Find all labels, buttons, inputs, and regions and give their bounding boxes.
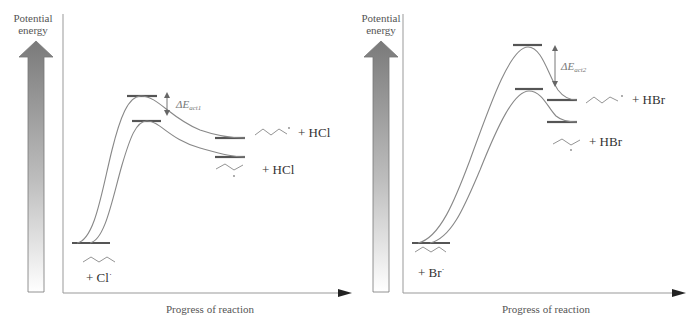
radical-dot-icon	[570, 149, 572, 151]
reaction-curve-lower	[90, 121, 245, 243]
reactant-label: + Cl·	[86, 269, 112, 285]
radical-dot-icon	[288, 127, 290, 129]
potential-energy-label-line2: energy	[18, 24, 48, 36]
secondary-radical-molecule-icon	[553, 139, 580, 145]
potential-energy-label-line1: Potential	[361, 12, 400, 24]
x-axis-arrowhead-icon	[338, 289, 352, 297]
x-axis-label: Progress of reaction	[502, 303, 590, 315]
product-upper-label: + HCl	[298, 125, 331, 140]
delta-e-act2-label: ΔEact2	[560, 60, 587, 74]
radical-dot-icon	[621, 95, 623, 97]
product-lower-label: + HCl	[262, 162, 295, 177]
reactant-label: + Br·	[418, 264, 445, 280]
delta-e-arrow-icon	[164, 92, 170, 116]
panel-bromination: Potential energy Progress of reaction ΔE…	[361, 12, 686, 315]
reaction-curve-lower	[430, 91, 577, 243]
propane-molecule-icon	[415, 247, 446, 252]
secondary-radical-molecule-icon	[216, 164, 243, 170]
product-upper-label: + HBr	[632, 92, 666, 107]
x-axis-label: Progress of reaction	[166, 303, 254, 315]
potential-energy-arrow-icon	[19, 41, 53, 292]
radical-dot-icon	[233, 175, 235, 177]
reaction-curve-upper	[418, 47, 577, 243]
primary-radical-molecule-icon	[586, 97, 618, 103]
potential-energy-arrow-icon	[364, 41, 398, 292]
reaction-curve-upper	[77, 96, 245, 243]
potential-energy-label-line2: energy	[366, 24, 396, 36]
potential-energy-label-line1: Potential	[13, 12, 52, 24]
delta-e-act1-label: ΔEact1	[175, 98, 201, 112]
x-axis-arrowhead-icon	[672, 289, 686, 297]
propane-molecule-icon	[83, 257, 115, 262]
primary-radical-molecule-icon	[255, 129, 287, 135]
product-lower-label: + HBr	[589, 134, 623, 149]
panel-chlorination: Potential energy Progress of reaction ΔE…	[13, 12, 352, 315]
